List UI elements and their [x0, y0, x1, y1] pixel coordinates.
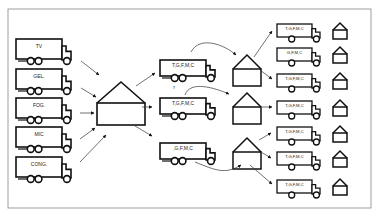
warehouse-body	[233, 107, 261, 124]
truck-label: T,G,F,M,C	[285, 103, 304, 108]
warehouse-body	[233, 152, 261, 169]
flow-arrow	[260, 70, 272, 79]
final-truck-7: T,G,F,M,C	[277, 180, 320, 198]
wheel-icon	[27, 58, 34, 65]
warehouse-body	[333, 30, 347, 39]
wheel-icon	[27, 88, 34, 95]
warehouse-body	[97, 103, 145, 125]
final-truck-4: T,G,F,M,C	[277, 101, 320, 119]
flow-arrow	[136, 73, 155, 86]
final-truck-3: T,G,F,M,C	[277, 74, 320, 92]
source-truck-cong: CONG.	[16, 157, 71, 182]
warehouse-roof	[333, 179, 347, 186]
wheel-icon	[313, 113, 319, 119]
truck-label: T,G,F,M,C	[285, 129, 304, 134]
destination-store-1-icon	[333, 23, 347, 39]
truck-body	[16, 39, 62, 59]
mid-truck-1: T,G,F,M,C	[160, 60, 215, 81]
wheel-icon	[313, 192, 319, 198]
wheel-icon	[27, 176, 34, 183]
flow-arrow	[259, 133, 271, 140]
warehouse-roof	[333, 23, 347, 30]
distribution-diagram: TVGEL.FOG.MICCONG.T,G,F,M,CT,G,F,M,C,G,F…	[0, 0, 382, 221]
wheel-icon	[35, 88, 42, 95]
flow-arrow	[80, 128, 95, 139]
warehouse-body	[333, 186, 347, 195]
wheel-icon	[289, 86, 295, 92]
truck-body	[16, 98, 62, 118]
warehouse-roof	[233, 55, 261, 69]
mid-truck-2: T,G,F,M,C	[160, 98, 215, 119]
curved-flow-arrow	[185, 86, 229, 95]
mid-truck-3: ,G,F,M,C	[160, 143, 215, 164]
truck-body	[16, 157, 62, 177]
warehouse-roof	[233, 93, 261, 107]
source-truck-gel: GEL.	[16, 69, 71, 94]
truck-label: T,G,F,M,C	[285, 154, 304, 159]
wheel-icon	[289, 36, 295, 42]
warehouse-roof	[333, 47, 347, 54]
central-warehouse-icon	[97, 82, 145, 125]
wheel-icon	[313, 36, 319, 42]
truck-note: T	[173, 85, 176, 90]
final-truck-1: T,G,F,M,C	[277, 24, 320, 42]
wheel-icon	[35, 58, 42, 65]
warehouse-roof	[333, 151, 347, 158]
wheel-icon	[313, 60, 319, 66]
wheel-icon	[35, 146, 42, 153]
destination-store-6-icon	[333, 151, 347, 167]
destination-store-4-icon	[333, 100, 347, 116]
wheel-icon	[179, 158, 186, 165]
truck-label: T,G,F,M,C	[285, 26, 304, 31]
truck-label: MIC	[34, 131, 44, 137]
source-truck-fog: FOG.	[16, 98, 71, 123]
wheel-icon	[313, 164, 319, 170]
wheel-icon	[289, 139, 295, 145]
regional-warehouse-2-icon	[233, 93, 261, 124]
warehouse-body	[333, 107, 347, 116]
wheel-icon	[289, 192, 295, 198]
source-truck-mic: MIC	[16, 127, 71, 152]
final-truck-2: G,F,M,C	[277, 48, 320, 66]
wheel-icon	[179, 113, 186, 120]
wheel-icon	[289, 113, 295, 119]
curved-flow-arrow	[191, 43, 236, 55]
source-truck-tv: TV	[16, 39, 71, 64]
wheel-icon	[171, 113, 178, 120]
truck-label: CONG.	[31, 161, 47, 167]
truck-body	[16, 127, 62, 147]
wheel-icon	[313, 86, 319, 92]
destination-store-5-icon	[333, 126, 347, 142]
destination-store-2-icon	[333, 47, 347, 63]
wheel-icon	[289, 164, 295, 170]
flow-arrow	[135, 126, 152, 136]
warehouse-roof	[233, 138, 261, 152]
destination-store-7-icon	[333, 179, 347, 195]
flow-arrow	[81, 61, 99, 75]
wheel-icon	[27, 117, 34, 124]
truck-label: ,G,F,M,C	[173, 145, 193, 151]
warehouse-body	[233, 69, 261, 86]
wheel-icon	[171, 75, 178, 82]
warehouse-body	[333, 54, 347, 63]
final-truck-5: T,G,F,M,C	[277, 127, 320, 145]
destination-store-3-icon	[333, 73, 347, 89]
wheel-icon	[64, 58, 71, 65]
regional-warehouse-3-icon	[233, 138, 261, 169]
warehouse-body	[333, 158, 347, 167]
wheel-icon	[208, 75, 215, 82]
regional-warehouse-1-icon	[233, 55, 261, 86]
wheel-icon	[64, 176, 71, 183]
wheel-icon	[35, 176, 42, 183]
truck-label: T,G,F,M,C	[285, 182, 304, 187]
flow-arrow	[254, 31, 272, 57]
warehouse-body	[333, 80, 347, 89]
wheel-icon	[313, 139, 319, 145]
wheel-icon	[208, 158, 215, 165]
wheel-icon	[289, 60, 295, 66]
truck-label: G,F,M,C	[287, 50, 302, 55]
truck-label: T,G,F,M,C	[172, 62, 195, 68]
wheel-icon	[35, 117, 42, 124]
truck-body	[16, 69, 62, 89]
warehouse-body	[333, 133, 347, 142]
